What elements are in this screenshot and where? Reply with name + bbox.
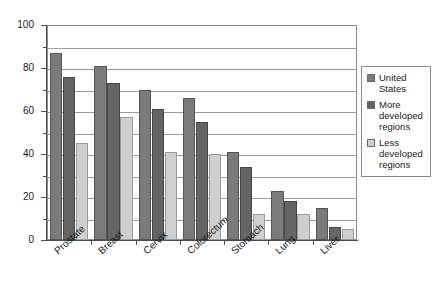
chart-legend: United StatesMore developed regionsLess … [361, 66, 431, 177]
y-tick-80 [41, 68, 46, 69]
legend-item-less-developed-regions[interactable]: Less developed regions [367, 137, 426, 170]
legend-swatch-united-states [367, 74, 375, 82]
legend-label-less-developed-regions: Less developed regions [379, 137, 426, 170]
y-tick-label-80: 80 [0, 63, 34, 73]
y-tick-minor-90 [43, 47, 46, 48]
bar-cervix-united-states [139, 90, 151, 241]
legend-item-united-states[interactable]: United States [367, 72, 426, 94]
bar-lung-less-developed-regions [297, 214, 309, 240]
bar-colorectum-united-states [183, 98, 195, 240]
y-tick-label-20: 20 [0, 192, 34, 202]
y-tick-40 [41, 154, 46, 155]
bar-prostate-united-states [50, 53, 62, 240]
x-tick-2 [136, 241, 137, 245]
gridline-90 [48, 48, 356, 49]
y-tick-20 [41, 197, 46, 198]
y-tick-label-100: 100 [0, 20, 34, 30]
y-tick-60 [41, 111, 46, 112]
y-tick-label-60: 60 [0, 106, 34, 116]
y-tick-0 [41, 240, 46, 241]
bar-liver-united-states [316, 208, 328, 240]
bar-cervix-more-developed-regions [152, 109, 164, 240]
y-axis-line [46, 25, 47, 241]
y-tick-label-0: 0 [0, 235, 34, 245]
y-tick-label-40: 40 [0, 149, 34, 159]
bar-lung-united-states [271, 191, 283, 240]
bar-breast-united-states [94, 66, 106, 240]
y-tick-minor-30 [43, 176, 46, 177]
bar-colorectum-more-developed-regions [196, 122, 208, 240]
bar-liver-less-developed-regions [342, 229, 354, 240]
bar-chart-figure: 020406080100 ProstateBreastCervixColorec… [0, 0, 446, 304]
y-tick-100 [41, 25, 46, 26]
bar-prostate-more-developed-regions [63, 77, 75, 240]
x-tick-1 [91, 241, 92, 245]
legend-swatch-more-developed-regions [367, 101, 375, 109]
bar-breast-more-developed-regions [107, 83, 119, 240]
legend-label-united-states: United States [379, 72, 426, 94]
legend-item-more-developed-regions[interactable]: More developed regions [367, 99, 426, 132]
bar-cervix-less-developed-regions [165, 152, 177, 240]
x-tick-4 [224, 241, 225, 245]
y-tick-minor-70 [43, 90, 46, 91]
x-tick-5 [268, 241, 269, 245]
bar-breast-less-developed-regions [120, 117, 132, 240]
x-tick-6 [313, 241, 314, 245]
y-tick-minor-50 [43, 133, 46, 134]
y-tick-minor-10 [43, 219, 46, 220]
legend-swatch-less-developed-regions [367, 139, 375, 147]
x-tick-3 [180, 241, 181, 245]
bar-stomach-united-states [227, 152, 239, 240]
legend-label-more-developed-regions: More developed regions [379, 99, 426, 132]
